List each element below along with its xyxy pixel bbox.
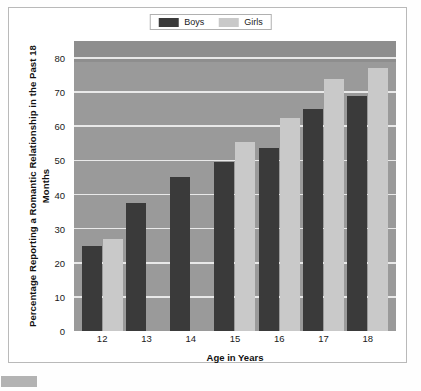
bar-boys-13 [126, 203, 146, 331]
legend-label-girls: Girls [244, 17, 263, 27]
legend-label-boys: Boys [184, 17, 204, 27]
bar-groups [74, 41, 396, 331]
bar-group-16 [257, 41, 301, 331]
bar-group-14 [169, 41, 213, 331]
bar-boys-17 [303, 109, 323, 331]
bar-group-17 [301, 41, 345, 331]
x-axis-title: Age in Years [74, 352, 396, 363]
bar-group-12 [80, 41, 124, 331]
bar-boys-14 [170, 177, 190, 331]
x-axis-ticks: 12131415161718 [74, 333, 396, 349]
x-tick-label: 14 [169, 333, 213, 349]
bar-girls-17 [324, 79, 344, 331]
plot-area [74, 41, 396, 331]
bar-group-18 [346, 41, 390, 331]
bar-girls-15 [235, 142, 255, 331]
bar-group-15 [213, 41, 257, 331]
y-axis-title: Percentage Reporting a Romantic Relation… [22, 41, 56, 331]
bar-boys-18 [347, 96, 367, 331]
x-tick-label: 17 [301, 333, 345, 349]
legend-item-boys: Boys [158, 17, 204, 27]
figure: Boys Girls 01020304050607080 12131415161… [0, 0, 421, 391]
x-tick-label: 16 [257, 333, 301, 349]
bar-group-13 [124, 41, 168, 331]
legend-swatch-girls [218, 18, 238, 27]
legend-item-girls: Girls [218, 17, 263, 27]
bar-girls-18 [368, 68, 388, 331]
legend-swatch-boys [158, 18, 178, 27]
x-tick-label: 18 [346, 333, 390, 349]
bar-girls-12 [103, 239, 123, 331]
x-tick-label: 13 [124, 333, 168, 349]
x-tick-label: 15 [213, 333, 257, 349]
bar-boys-15 [214, 162, 234, 331]
bar-girls-16 [280, 118, 300, 331]
bar-boys-16 [259, 148, 279, 331]
x-tick-label: 12 [80, 333, 124, 349]
bar-boys-12 [82, 246, 102, 331]
chart-legend: Boys Girls [149, 14, 272, 30]
caption-block [1, 376, 37, 387]
